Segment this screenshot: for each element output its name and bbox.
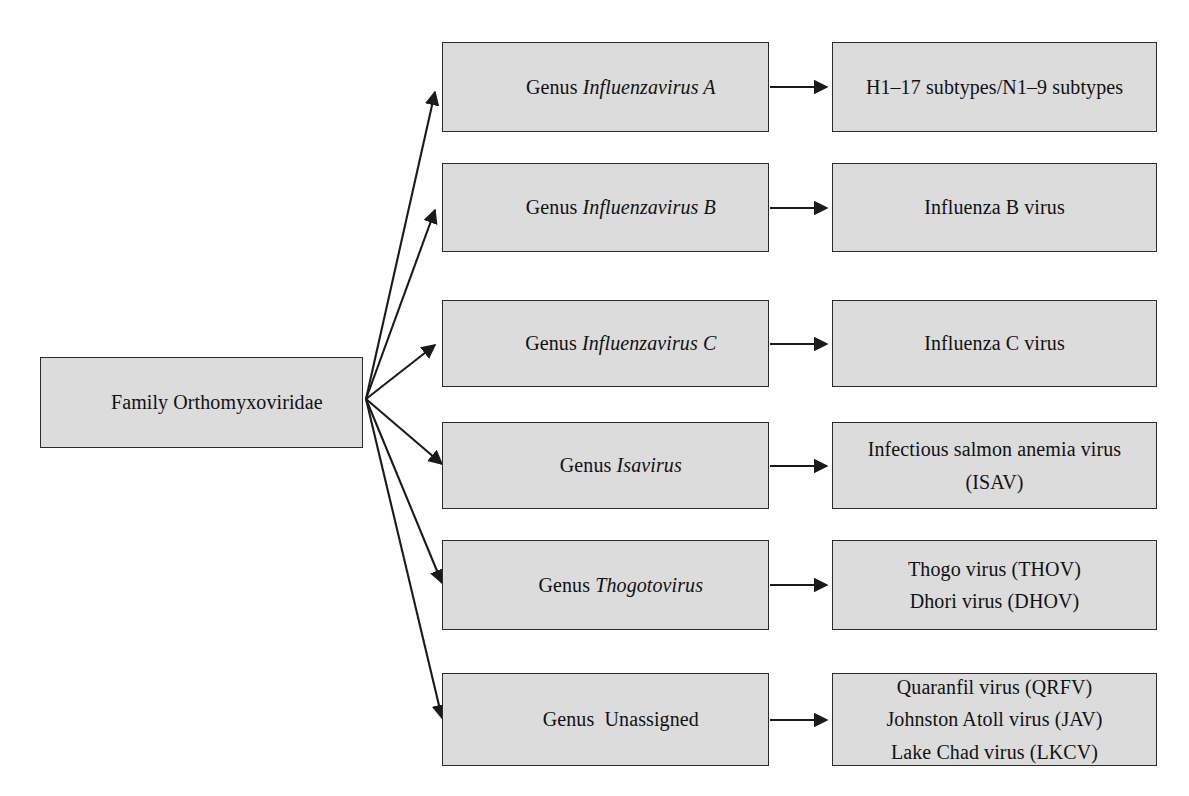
genus-name: Isavirus [617, 454, 682, 476]
arrow-family-to-isavirus [366, 399, 442, 464]
genus-name: Influenzavirus A [583, 76, 716, 98]
genus-box-influenzavirus-a[interactable]: Genus Influenzavirus A [442, 42, 769, 132]
genus-label-unassigned: Genus Unassigned [512, 680, 699, 759]
species-line: Dhori virus (DHOV) [910, 588, 1080, 614]
genus-box-influenzavirus-b[interactable]: Genus Influenzavirus B [442, 163, 769, 252]
family-name: Orthomyxoviridae [173, 391, 322, 413]
genus-name: Thogotovirus [595, 574, 703, 596]
genus-box-influenzavirus-c[interactable]: Genus Influenzavirus C [442, 300, 769, 387]
family-box-label: Family Orthomyxoviridae [80, 363, 322, 442]
family-prefix: Family [111, 391, 173, 413]
species-box-unassigned[interactable]: Quaranfil virus (QRFV) Johnston Atoll vi… [832, 673, 1157, 766]
species-line: Thogo virus (THOV) [908, 556, 1081, 582]
genus-label-influenzavirus-a: Genus Influenzavirus A [495, 47, 715, 126]
species-box-isavirus[interactable]: Infectious salmon anemia virus (ISAV) [832, 422, 1157, 509]
arrow-family-to-thogotovirus [366, 399, 442, 583]
genus-prefix: Genus [539, 574, 596, 596]
genus-name: Influenzavirus C [582, 332, 716, 354]
genus-prefix: Genus [526, 76, 583, 98]
species-line: Influenza C virus [924, 330, 1065, 356]
genus-prefix: Genus [560, 454, 617, 476]
genus-box-unassigned[interactable]: Genus Unassigned [442, 673, 769, 766]
species-box-influenzavirus-b[interactable]: Influenza B virus [832, 163, 1157, 252]
genus-prefix: Genus [543, 708, 605, 730]
genus-label-isavirus: Genus Isavirus [529, 426, 682, 505]
genus-prefix: Genus [525, 332, 582, 354]
arrow-family-to-influenzavirus-c [366, 345, 435, 399]
species-line: Influenza B virus [924, 194, 1065, 220]
species-box-thogotovirus[interactable]: Thogo virus (THOV) Dhori virus (DHOV) [832, 540, 1157, 630]
species-line: Johnston Atoll virus (JAV) [886, 706, 1102, 732]
species-line: Infectious salmon anemia virus [868, 436, 1122, 462]
species-box-influenzavirus-a[interactable]: H1–17 subtypes/N1–9 subtypes [832, 42, 1157, 132]
genus-box-thogotovirus[interactable]: Genus Thogotovirus [442, 540, 769, 630]
genus-name: Unassigned [605, 708, 699, 730]
species-line: H1–17 subtypes/N1–9 subtypes [866, 74, 1123, 100]
genus-name: Influenzavirus B [583, 196, 716, 218]
genus-label-thogotovirus: Genus Thogotovirus [508, 545, 703, 624]
species-line: Lake Chad virus (LKCV) [891, 739, 1098, 765]
species-box-influenzavirus-c[interactable]: Influenza C virus [832, 300, 1157, 387]
species-line: (ISAV) [965, 469, 1023, 495]
arrow-family-to-influenzavirus-b [366, 210, 435, 399]
genus-label-influenzavirus-b: Genus Influenzavirus B [495, 168, 716, 247]
genus-label-influenzavirus-c: Genus Influenzavirus C [495, 304, 717, 383]
arrow-family-to-influenzavirus-a [366, 92, 435, 399]
genus-prefix: Genus [526, 196, 583, 218]
diagram-canvas: Family Orthomyxoviridae Genus Influenzav… [0, 0, 1189, 796]
family-box[interactable]: Family Orthomyxoviridae [40, 357, 363, 448]
genus-box-isavirus[interactable]: Genus Isavirus [442, 422, 769, 509]
arrow-family-to-unassigned [366, 399, 442, 718]
species-line: Quaranfil virus (QRFV) [897, 674, 1093, 700]
